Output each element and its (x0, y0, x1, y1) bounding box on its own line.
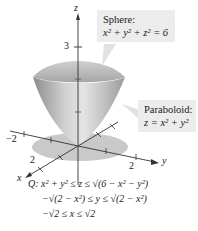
z-axis-label: z (74, 2, 78, 13)
paraboloid-callout: Paraboloid: z = x² + y² (138, 100, 196, 132)
region-line-2: −√(2 − x²) ≤ y ≤ √(2 − x²) (28, 191, 148, 206)
region-line-3: −√2 ≤ x ≤ √2 (28, 206, 148, 221)
z-axis-arrow (76, 13, 80, 20)
region-line-1: Q: x² + y² ≤ z ≤ √(6 − x² − y²) (28, 176, 148, 191)
y-axis-arrow (151, 159, 159, 165)
x-bounds: −√2 ≤ x ≤ √2 (42, 208, 95, 219)
z-bounds: x² + y² ≤ z ≤ √(6 − x² − y²) (41, 178, 148, 189)
y-bounds: −√(2 − x²) ≤ y ≤ √(2 − x²) (42, 193, 147, 204)
sphere-callout-title: Sphere: (103, 13, 169, 26)
sphere-callout: Sphere: x² + y² + z² = 6 (97, 10, 175, 42)
paraboloid-surface (33, 77, 125, 146)
x-axis-label: x (17, 172, 21, 183)
z-tick-3: 3 (64, 40, 69, 51)
paraboloid-callout-title: Paraboloid: (144, 103, 190, 116)
sphere-callout-pointer (102, 44, 116, 66)
y-axis-label: y (162, 155, 166, 166)
sphere-equation: x² + y² + z² = 6 (103, 27, 168, 38)
y-tick-2: 2 (129, 160, 134, 171)
region-name: Q: (28, 178, 39, 189)
neg-y-tick: −2 (6, 133, 17, 144)
region-definition: Q: x² + y² ≤ z ≤ √(6 − x² − y²) −√(2 − x… (28, 176, 148, 221)
paraboloid-equation: z = x² + y² (144, 117, 188, 128)
x-tick-2: 2 (30, 154, 35, 165)
